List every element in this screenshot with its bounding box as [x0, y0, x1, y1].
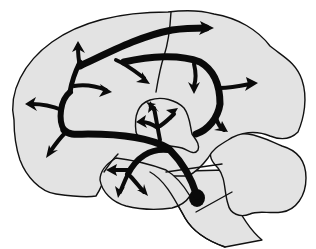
brain-diagram: [0, 0, 316, 249]
